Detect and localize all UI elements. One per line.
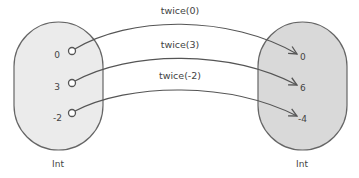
mapping-label: twice(0)	[161, 5, 200, 16]
codomain-label: Int	[296, 159, 308, 169]
mapping-label: twice(3)	[161, 39, 200, 50]
domain-point-0	[69, 48, 76, 55]
domain-value: -2	[53, 113, 62, 123]
function-mapping-diagram: 0 3 -2 0 0 6 -4 twice(0) twice(3) twice(…	[0, 0, 359, 178]
codomain-value: 0	[300, 52, 306, 62]
domain-value: 3	[54, 82, 60, 92]
domain-value: 0	[54, 50, 60, 60]
domain-point-3	[69, 80, 76, 87]
domain-label: Int	[52, 159, 64, 169]
codomain-value: -4	[298, 114, 307, 124]
codomain-value: 6	[300, 83, 306, 93]
domain-point-neg2	[69, 110, 76, 117]
mapping-label: twice(-2)	[159, 70, 201, 81]
